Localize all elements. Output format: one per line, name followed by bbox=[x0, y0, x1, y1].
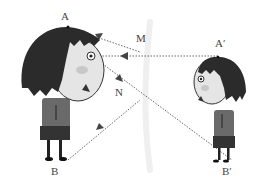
shoe bbox=[213, 159, 219, 162]
arrow-icon bbox=[96, 123, 104, 130]
shoe bbox=[59, 157, 67, 161]
pupil bbox=[89, 54, 92, 57]
leg bbox=[218, 148, 221, 160]
skirt bbox=[213, 136, 235, 148]
shoe bbox=[223, 159, 229, 162]
leg bbox=[47, 140, 50, 158]
leg bbox=[59, 140, 62, 158]
label-a-prime: A′ bbox=[215, 38, 225, 49]
arrow-icon bbox=[120, 52, 128, 60]
ray-b-to-n bbox=[68, 100, 140, 160]
label-b: B bbox=[51, 166, 58, 177]
point-a-prime bbox=[217, 56, 220, 59]
pupil bbox=[200, 78, 202, 80]
point-a bbox=[67, 26, 70, 29]
cheek bbox=[201, 85, 209, 91]
leg bbox=[227, 148, 230, 160]
shoe bbox=[45, 157, 53, 161]
cheek bbox=[76, 66, 88, 74]
label-n: N bbox=[115, 87, 123, 98]
girl-right bbox=[194, 56, 246, 163]
optics-diagram: A M A′ N B B′ bbox=[0, 0, 269, 185]
label-m: M bbox=[136, 33, 146, 44]
skirt bbox=[40, 126, 70, 140]
label-a: A bbox=[61, 11, 69, 22]
diagram-canvas bbox=[0, 0, 269, 185]
label-b-prime: B′ bbox=[222, 166, 232, 177]
